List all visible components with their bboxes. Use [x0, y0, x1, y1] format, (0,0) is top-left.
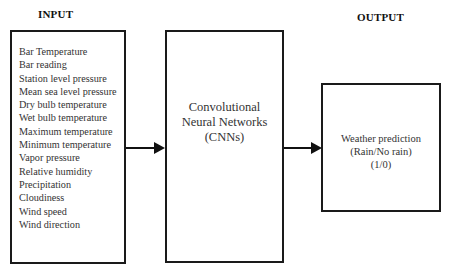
connector-layer — [0, 0, 449, 272]
arrow-head-icon — [311, 142, 322, 154]
arrow-cnn-to-output — [284, 142, 322, 154]
arrow-head-icon — [154, 142, 165, 154]
arrow-input-to-cnn — [126, 142, 165, 154]
